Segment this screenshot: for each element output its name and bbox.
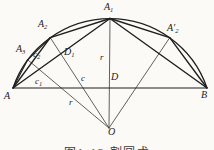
diagram-canvas [0,0,214,150]
segment-label-c2: c2 [33,50,40,60]
chord-a1-b [110,19,207,89]
radius-label-r-vertical: r [100,53,104,62]
radius-o-a3 [28,60,109,128]
chord-a2-a1 [50,19,110,38]
chord-a-a3 [13,60,28,88]
point-label-o: O [108,127,115,137]
radius-o-a1 [109,19,110,129]
point-label-c: c [81,74,85,83]
segment-label-c1: c1 [35,77,42,87]
point-label-a2: A2 [38,19,47,30]
point-label-a2prime: A′2 [167,23,179,34]
point-label-a3: A3 [16,44,25,55]
geometry-figure: A B A1 A2 A3 A′2 O D D1 c c1 c2 r r 图1-1… [0,0,214,150]
point-label-d1: D1 [64,47,74,58]
point-label-a1: A1 [104,2,113,13]
point-label-a: A [4,91,10,101]
chord-a2prime-b [170,38,207,88]
figure-caption: 图1-13 割圆术 [0,143,214,150]
chord-a1-a2prime [110,19,170,38]
radius-label-r-left: r [69,98,73,107]
radius-o-a2prime [109,38,170,128]
chord-a-a1 [13,19,110,89]
point-label-d: D [111,72,118,82]
point-label-b: B [201,90,207,100]
